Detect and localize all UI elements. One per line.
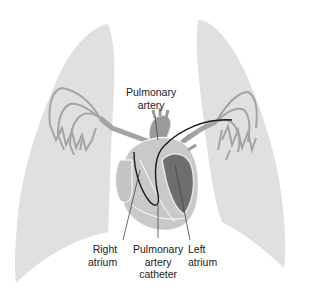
label-right-atrium: Right atrium	[88, 243, 117, 268]
heart	[116, 108, 199, 230]
label-left-atrium: Left atrium	[188, 243, 217, 268]
label-pulmonary-artery: Pulmonary artery	[126, 86, 176, 111]
label-pulmonary-artery-catheter: Pulmonary artery catheter	[133, 243, 183, 281]
